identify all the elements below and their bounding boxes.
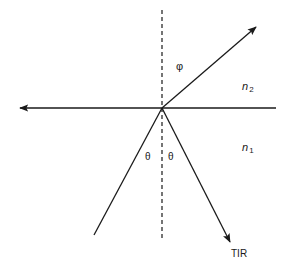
- phi-label: φ: [176, 60, 183, 72]
- theta-right-label: θ: [168, 151, 174, 162]
- tir-diagram: φ n2 n1 θ θ TIR: [0, 0, 285, 265]
- n2-label: n2: [242, 80, 254, 94]
- tir-label: TIR: [231, 248, 247, 259]
- tir-ray: [162, 108, 230, 242]
- incident-ray: [94, 108, 162, 235]
- theta-left-label: θ: [145, 151, 151, 162]
- n1-label: n1: [242, 141, 254, 155]
